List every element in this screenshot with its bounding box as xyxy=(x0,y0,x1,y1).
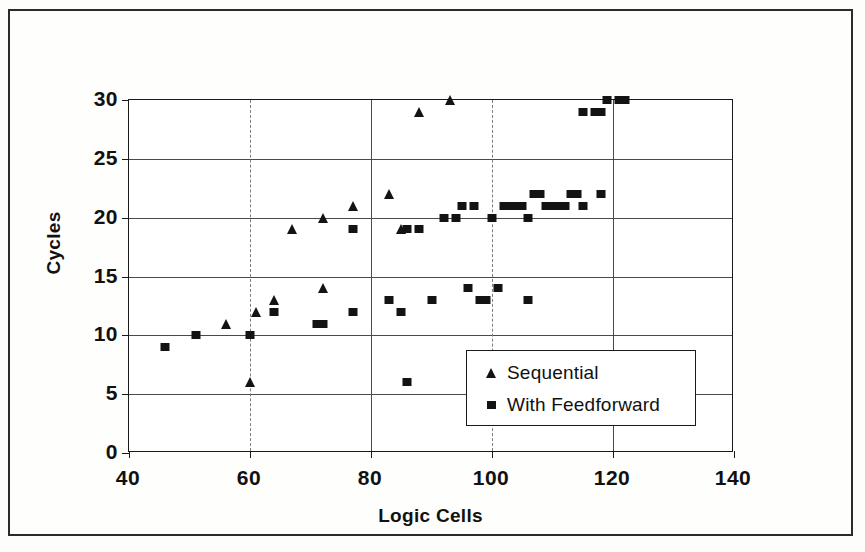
data-point-square xyxy=(457,202,466,210)
data-point-triangle xyxy=(384,189,394,199)
data-point-square xyxy=(621,96,630,104)
data-point-square xyxy=(403,225,412,233)
data-point-square xyxy=(439,214,448,222)
y-tick-label: 30 xyxy=(94,87,118,111)
data-point-square xyxy=(385,296,394,304)
y-tick-label: 25 xyxy=(94,146,118,170)
y-tick-mark xyxy=(122,277,129,278)
legend-item-label: Sequential xyxy=(507,362,599,384)
gridline-horizontal xyxy=(129,335,732,336)
data-point-square xyxy=(451,214,460,222)
triangle-marker-icon xyxy=(481,368,501,378)
data-point-square xyxy=(469,202,478,210)
x-tick-mark xyxy=(492,451,493,458)
data-point-square xyxy=(524,214,533,222)
gridline-horizontal xyxy=(129,218,732,219)
y-tick-mark xyxy=(122,453,129,454)
x-tick-label: 60 xyxy=(237,466,261,490)
x-tick-label: 120 xyxy=(594,466,631,490)
data-point-square xyxy=(602,96,611,104)
data-point-square xyxy=(494,284,503,292)
x-tick-label: 40 xyxy=(116,466,140,490)
gridline-horizontal xyxy=(129,277,732,278)
x-tick-label: 100 xyxy=(473,466,510,490)
legend-item-sequential: Sequential xyxy=(481,357,695,389)
data-point-triangle xyxy=(445,95,455,105)
data-point-square xyxy=(536,190,545,198)
data-point-square xyxy=(348,308,357,316)
y-tick-mark xyxy=(122,335,129,336)
x-tick-label: 140 xyxy=(715,466,752,490)
square-marker-icon xyxy=(481,401,501,409)
data-point-triangle xyxy=(245,377,255,387)
legend-item-label: With Feedforward xyxy=(507,394,660,416)
data-point-square xyxy=(348,225,357,233)
data-point-square xyxy=(524,296,533,304)
y-tick-mark xyxy=(122,394,129,395)
data-point-square xyxy=(415,225,424,233)
data-point-square xyxy=(463,284,472,292)
data-point-square xyxy=(578,202,587,210)
data-point-square xyxy=(518,202,527,210)
y-axis-title: Cycles xyxy=(43,183,65,303)
data-point-square xyxy=(318,320,327,328)
x-tick-label: 80 xyxy=(358,466,382,490)
scatter-plot-figure: 051015202530 406080100120140 Logic Cells… xyxy=(0,0,865,552)
data-point-triangle xyxy=(318,213,328,223)
data-point-square xyxy=(246,331,255,339)
y-tick-label: 10 xyxy=(94,322,118,346)
data-point-square xyxy=(481,296,490,304)
data-point-square xyxy=(403,378,412,386)
y-tick-label: 5 xyxy=(106,381,118,405)
x-tick-mark xyxy=(250,451,251,458)
y-axis-tick-labels: 051015202530 xyxy=(72,99,118,452)
data-point-triangle xyxy=(251,307,261,317)
x-axis-title: Logic Cells xyxy=(128,505,733,527)
y-tick-mark xyxy=(122,159,129,160)
x-tick-mark xyxy=(734,451,735,458)
data-point-square xyxy=(191,331,200,339)
y-tick-label: 15 xyxy=(94,264,118,288)
gridline-horizontal xyxy=(129,159,732,160)
data-point-square xyxy=(397,308,406,316)
legend-item-with-feedforward: With Feedforward xyxy=(481,389,695,421)
data-point-triangle xyxy=(287,224,297,234)
data-point-square xyxy=(488,214,497,222)
gridline-vertical xyxy=(250,100,251,451)
data-point-triangle xyxy=(318,283,328,293)
data-point-triangle xyxy=(348,201,358,211)
y-tick-label: 0 xyxy=(106,440,118,464)
chart-legend: Sequential With Feedforward xyxy=(466,350,696,426)
data-point-square xyxy=(161,343,170,351)
x-tick-mark xyxy=(613,451,614,458)
y-tick-mark xyxy=(122,218,129,219)
x-tick-mark xyxy=(129,451,130,458)
data-point-square xyxy=(596,108,605,116)
x-tick-mark xyxy=(371,451,372,458)
gridline-vertical xyxy=(371,100,372,451)
data-point-triangle xyxy=(221,319,231,329)
data-point-square xyxy=(427,296,436,304)
data-point-triangle xyxy=(414,107,424,117)
data-point-square xyxy=(578,108,587,116)
y-tick-mark xyxy=(122,100,129,101)
data-point-square xyxy=(560,202,569,210)
x-axis-tick-labels: 406080100120140 xyxy=(128,466,733,496)
data-point-triangle xyxy=(269,295,279,305)
data-point-square xyxy=(596,190,605,198)
data-point-square xyxy=(572,190,581,198)
data-point-square xyxy=(270,308,279,316)
y-tick-label: 20 xyxy=(94,205,118,229)
